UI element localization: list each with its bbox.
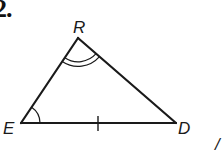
- angle-arc-R-inner: [65, 54, 96, 62]
- cutoff-glyph: /: [214, 135, 222, 154]
- triangle-figure: R E D /: [0, 0, 223, 154]
- vertex-label-R: R: [73, 18, 85, 37]
- triangle-sides: [21, 38, 176, 123]
- side-RD: [78, 38, 176, 123]
- angle-mark-R: [62, 54, 99, 67]
- angle-mark-E: [32, 107, 40, 123]
- side-RE: [21, 38, 78, 123]
- vertex-label-D: D: [178, 119, 190, 138]
- vertex-label-E: E: [3, 119, 15, 138]
